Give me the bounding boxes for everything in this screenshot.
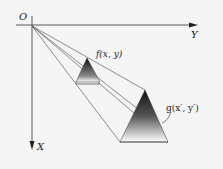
y-axis-label: Y	[191, 29, 199, 40]
y-axis-arrow-icon	[189, 23, 198, 28]
object-label: f(x, y)	[95, 49, 123, 59]
x-axis	[30, 16, 35, 150]
image-label: g(x′, y′)	[166, 103, 199, 113]
object-triangle	[76, 58, 100, 84]
image-triangle	[120, 90, 168, 142]
projection-diagram: O Y X f(x, y) g(x′, y′)	[0, 0, 223, 169]
image-label-leader	[162, 112, 171, 123]
x-axis-label: X	[36, 141, 45, 152]
x-axis-arrow-icon	[30, 141, 35, 150]
y-axis	[16, 23, 198, 28]
origin-label: O	[19, 11, 27, 22]
diagram-svg: O Y X f(x, y) g(x′, y′)	[0, 0, 223, 169]
